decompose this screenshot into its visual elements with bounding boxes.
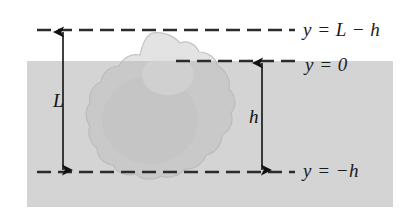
label-length-L: L [53, 91, 64, 110]
label-y-equals-L-minus-h: y = L − h [303, 20, 380, 39]
physics-figure-floating-body: y = L − h y = 0 y = −h L h [0, 0, 419, 222]
label-y-equals-minus-h: y = −h [303, 161, 359, 180]
label-y-equals-zero: y = 0 [305, 55, 348, 74]
label-depth-h: h [249, 107, 259, 126]
